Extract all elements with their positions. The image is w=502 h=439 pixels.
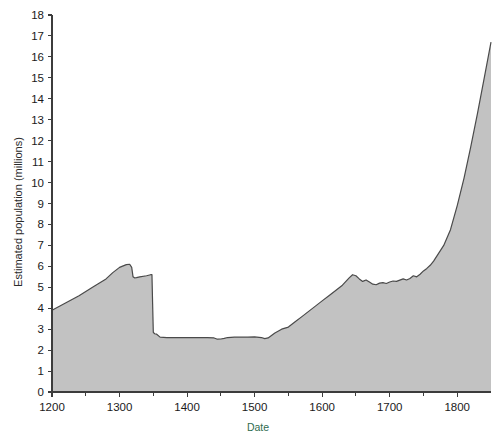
area-series-fill: [52, 42, 491, 392]
y-tick-label: 5: [38, 281, 44, 293]
x-tick-label: 1700: [377, 401, 403, 413]
y-axis: 0123456789101112131415161718: [31, 9, 52, 398]
x-tick-label: 1400: [174, 401, 200, 413]
y-tick-label: 4: [38, 302, 45, 314]
plot-area: [52, 42, 491, 392]
x-axis: 1200130014001500160017001800: [39, 392, 491, 413]
y-tick-label: 8: [38, 218, 44, 230]
y-tick-label: 13: [31, 114, 44, 126]
y-tick-label: 9: [38, 198, 44, 210]
x-tick-label: 1500: [242, 401, 268, 413]
y-tick-label: 6: [38, 260, 44, 272]
y-tick-label: 17: [31, 30, 44, 42]
y-tick-label: 18: [31, 9, 44, 21]
x-tick-label: 1800: [444, 401, 470, 413]
x-axis-title: Date: [247, 421, 269, 433]
y-axis-title: Estimated population (millions): [12, 137, 24, 287]
x-tick-label: 1200: [39, 401, 65, 413]
y-tick-label: 1: [38, 365, 44, 377]
x-tick-label: 1300: [107, 401, 133, 413]
population-chart: 0123456789101112131415161718 12001300140…: [0, 0, 502, 439]
y-tick-label: 2: [38, 344, 44, 356]
y-tick-label: 11: [32, 156, 44, 168]
y-tick-label: 14: [31, 93, 44, 105]
y-axis-ticks: 0123456789101112131415161718: [31, 9, 52, 398]
y-tick-label: 0: [38, 386, 44, 398]
y-tick-label: 15: [31, 72, 44, 84]
y-tick-label: 12: [31, 135, 44, 147]
y-tick-label: 7: [38, 239, 44, 251]
x-tick-label: 1600: [309, 401, 335, 413]
chart-canvas: 0123456789101112131415161718 12001300140…: [0, 0, 502, 439]
y-tick-label: 16: [31, 51, 44, 63]
y-tick-label: 10: [31, 177, 44, 189]
x-axis-ticks: 1200130014001500160017001800: [39, 392, 470, 413]
y-tick-label: 3: [38, 323, 44, 335]
